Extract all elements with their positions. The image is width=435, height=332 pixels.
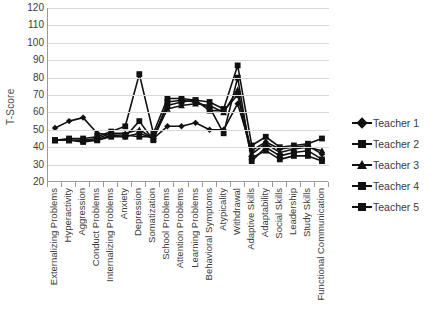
x-axis-tick-label: Leadership xyxy=(288,188,298,235)
data-point xyxy=(319,156,325,162)
gridline xyxy=(48,8,329,9)
data-point xyxy=(80,137,86,143)
y-axis-tick-label: 70 xyxy=(18,90,44,100)
x-axis-tick-label: School Problems xyxy=(161,188,171,260)
y-axis-tick-label: 20 xyxy=(18,177,44,187)
x-axis-tick xyxy=(75,182,76,187)
gridline xyxy=(48,147,329,148)
x-axis-tick xyxy=(61,182,62,187)
y-axis-title: T-Score xyxy=(2,62,18,152)
data-point xyxy=(207,104,213,110)
x-axis-tick xyxy=(272,182,273,187)
x-axis-tick-label: Social Skills xyxy=(274,188,284,239)
gridline xyxy=(48,25,329,26)
legend: Teacher 1Teacher 2Teacher 3Teacher 4Teac… xyxy=(352,112,434,217)
x-axis-tick-label: Functional Communication xyxy=(316,188,326,300)
x-axis-tick xyxy=(131,182,132,187)
data-point xyxy=(305,153,311,159)
gridline xyxy=(48,165,329,166)
legend-label: Teacher 4 xyxy=(372,180,419,192)
data-point xyxy=(66,137,72,143)
legend-label: Teacher 1 xyxy=(372,117,419,129)
data-point xyxy=(207,99,213,105)
y-axis-tick-label: 110 xyxy=(18,20,44,30)
data-point xyxy=(305,148,311,154)
y-axis-tick-label: 40 xyxy=(18,142,44,152)
data-point xyxy=(192,120,198,126)
x-axis-tick xyxy=(258,182,259,187)
legend-item[interactable]: Teacher 5 xyxy=(352,196,434,217)
x-axis-tick xyxy=(188,182,189,187)
data-point xyxy=(136,71,142,77)
data-point xyxy=(291,150,297,156)
x-axis-tick-label: Adaptive Skills xyxy=(246,188,256,250)
x-axis-tick xyxy=(159,182,160,187)
gridline xyxy=(48,43,329,44)
x-axis-tick xyxy=(244,182,245,187)
x-axis-tick-label: Hyperactivity xyxy=(63,188,73,242)
x-axis-tick xyxy=(117,182,118,187)
x-axis-tick-label: Atypicality xyxy=(218,188,228,231)
data-point xyxy=(108,134,114,140)
x-axis-tick-label: Conduct Problems xyxy=(91,188,101,266)
y-axis-tick-label: 100 xyxy=(18,38,44,48)
data-point xyxy=(319,136,325,142)
data-point xyxy=(136,118,142,124)
gridline xyxy=(48,112,329,113)
x-axis-tick-label: Learning Problems xyxy=(190,188,200,268)
x-axis-tick xyxy=(173,182,174,187)
x-axis-tick xyxy=(202,182,203,187)
data-point xyxy=(52,137,58,143)
data-point xyxy=(136,134,142,140)
data-point xyxy=(193,99,199,105)
y-axis-tick-label: 60 xyxy=(18,107,44,117)
y-axis-tick-label: 90 xyxy=(18,55,44,65)
line-chart: T-Score 1201101009080706050403020 Extern… xyxy=(0,0,435,332)
gridline xyxy=(48,95,329,96)
data-point xyxy=(221,106,227,112)
legend-item[interactable]: Teacher 1 xyxy=(352,112,434,133)
x-axis-ticks xyxy=(47,182,328,187)
data-point xyxy=(263,134,269,140)
plot-area xyxy=(47,8,328,182)
data-point xyxy=(66,118,72,124)
gridline xyxy=(48,60,329,61)
legend-item[interactable]: Teacher 4 xyxy=(352,175,434,196)
data-point xyxy=(150,137,156,143)
gridline xyxy=(48,78,329,79)
x-axis-tick-label: Aggression xyxy=(77,188,87,236)
x-axis-tick xyxy=(145,182,146,187)
legend-label: Teacher 3 xyxy=(372,159,419,171)
x-axis-tick-labels: Externalizing ProblemsHyperactivityAggre… xyxy=(47,188,328,330)
y-axis-tick-label: 50 xyxy=(18,125,44,135)
gridline xyxy=(48,130,329,131)
legend-marker-square-icon xyxy=(352,180,372,192)
series-teacher-4 xyxy=(52,63,325,151)
legend-marker-square-icon xyxy=(352,138,372,150)
y-axis-tick-labels: 1201101009080706050403020 xyxy=(18,8,44,182)
x-axis-tick xyxy=(230,182,231,187)
x-axis-tick-label: Attention Problems xyxy=(175,188,185,268)
legend-item[interactable]: Teacher 2 xyxy=(352,133,434,154)
data-point xyxy=(221,130,227,136)
x-axis-tick xyxy=(216,182,217,187)
data-point xyxy=(235,63,241,69)
x-axis-tick-label: Adaptability xyxy=(260,188,270,237)
legend-marker-square-icon xyxy=(352,201,372,213)
x-axis-tick-label: Somatization xyxy=(147,188,157,243)
y-axis-tick-label: 80 xyxy=(18,73,44,83)
data-point xyxy=(305,141,311,147)
x-axis-tick-label: Behavioral Symptoms xyxy=(204,188,214,280)
y-axis-tick-label: 120 xyxy=(18,3,44,13)
legend-marker-triangle-icon xyxy=(352,159,372,171)
data-point xyxy=(249,158,255,164)
x-axis-tick-label: Withdrawal xyxy=(232,188,242,235)
legend-label: Teacher 5 xyxy=(372,201,419,213)
x-axis-tick xyxy=(286,182,287,187)
x-axis-tick-label: Externalizing Problems xyxy=(49,188,59,285)
x-axis-tick xyxy=(47,182,48,187)
legend-item[interactable]: Teacher 3 xyxy=(352,154,434,175)
x-axis-tick xyxy=(314,182,315,187)
data-point xyxy=(178,123,184,129)
x-axis-tick xyxy=(89,182,90,187)
